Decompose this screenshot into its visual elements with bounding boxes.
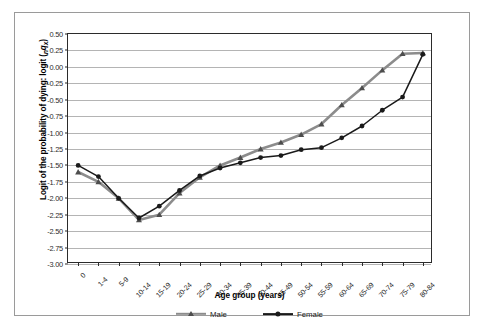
data-point: [137, 216, 142, 221]
gridline: [68, 264, 431, 265]
data-point: [177, 188, 182, 193]
series-layer: [68, 34, 433, 264]
y-axis-tick-label: -0.50: [47, 95, 63, 104]
data-point: [238, 160, 243, 165]
y-axis-tick-label: -2.75: [47, 243, 63, 252]
y-axis-tick-label: -2.25: [47, 210, 63, 219]
data-point: [279, 153, 284, 158]
y-axis-tick-label: -1.50: [47, 161, 63, 170]
triangle-marker-icon: [188, 311, 194, 316]
y-axis-variable-q: q: [39, 45, 48, 50]
data-point: [360, 124, 365, 129]
legend-label-female: Female: [297, 310, 323, 319]
y-axis-subscript-n: n: [42, 50, 49, 54]
data-point: [76, 163, 81, 168]
y-axis-tick-label: -1.75: [47, 177, 63, 186]
chart-legend: Male Female: [67, 309, 432, 319]
y-axis-tick-label: -1.00: [47, 128, 63, 137]
x-axis-title: Age group (years): [67, 291, 432, 300]
x-axis-tick-label: 1-4: [103, 268, 116, 281]
series-line: [78, 53, 423, 220]
data-point: [299, 147, 304, 152]
data-point: [96, 174, 101, 179]
data-point: [380, 108, 385, 113]
data-point: [420, 52, 425, 57]
data-point: [400, 95, 405, 100]
y-axis-tick-label: -0.25: [47, 79, 63, 88]
y-axis-tick-label: -2.00: [47, 194, 63, 203]
legend-swatch-female: [263, 309, 293, 319]
data-point: [218, 166, 223, 171]
plot-area: 0.500.250.00-0.25-0.50-0.75-1.00-1.25-1.…: [67, 33, 432, 263]
x-axis-tick-label: 80-84: [430, 268, 449, 287]
y-axis-tick-label: -3.00: [47, 260, 63, 269]
data-point: [258, 155, 263, 160]
data-point: [339, 135, 344, 140]
legend-swatch-male: [176, 309, 206, 319]
legend-label-male: Male: [210, 310, 227, 319]
series-male: [75, 50, 426, 222]
figure-frame: Logit of the probability of dying: logit…: [14, 12, 470, 316]
x-axis-tick-label: 0: [81, 268, 90, 277]
legend-item-male: Male: [176, 309, 227, 319]
data-point: [157, 204, 162, 209]
legend-item-female: Female: [263, 309, 323, 319]
plot-inner: 0.500.250.00-0.25-0.50-0.75-1.00-1.25-1.…: [68, 34, 431, 262]
data-point: [319, 145, 324, 150]
x-axis-tick-label: 5-9: [124, 268, 137, 281]
y-axis-tick-label: -0.75: [47, 112, 63, 121]
y-axis-tick-label: 0.25: [49, 46, 63, 55]
circle-marker-icon: [275, 311, 280, 316]
y-axis-subscript-x: x: [42, 42, 49, 45]
y-axis-tick-label: -1.25: [47, 145, 63, 154]
y-axis-tick-label: -2.50: [47, 227, 63, 236]
y-axis-tick-label: 0.50: [49, 30, 63, 39]
data-point: [197, 174, 202, 179]
y-axis-tick-label: 0.00: [49, 62, 63, 71]
data-point: [116, 196, 121, 201]
y-axis-title-close: ): [39, 39, 48, 42]
